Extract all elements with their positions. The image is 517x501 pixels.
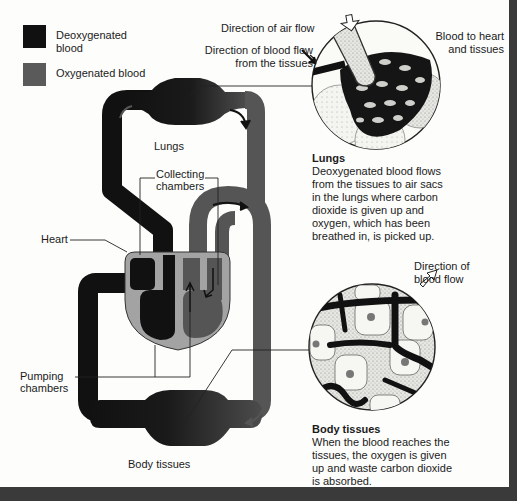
heart — [125, 252, 230, 350]
tissues-magnified-view — [309, 270, 440, 415]
label-blood-flow-from-tissues: Direction of blood flow from the tissues — [185, 44, 313, 70]
legend-swatch-deoxygenated — [23, 25, 46, 48]
legend-deoxy-line2: blood — [56, 42, 127, 55]
label-air-flow: Direction of air flow — [221, 22, 315, 35]
legend-deoxy-line1: Deoxygenated — [56, 29, 127, 42]
lungs-caption-line: Deoxygenated blood flows — [312, 165, 443, 178]
tissues-caption-title: Body tissues — [312, 423, 452, 436]
collecting-line2: chambers — [156, 180, 204, 192]
legend-label-deoxygenated: Deoxygenated blood — [56, 29, 127, 55]
direction-blood-flow-line2: blood flow — [414, 273, 470, 286]
lungs-caption-line: dioxide is given up and — [312, 204, 443, 217]
direction-blood-flow-line1: Direction of — [414, 260, 470, 273]
lungs-caption-line: in the lungs where carbon — [312, 191, 443, 204]
label-collecting-chambers: Collecting chambers — [156, 168, 204, 192]
label-direction-blood-flow: Direction of blood flow — [414, 260, 470, 286]
lungs-caption-line: breathed in, is picked up. — [312, 230, 443, 243]
tissues-caption-line: is absorbed. — [312, 475, 452, 487]
blood-to-heart-line1: Blood to heart — [430, 30, 504, 43]
label-heart: Heart — [41, 233, 68, 246]
blood-flow-tissues-line2: from the tissues — [185, 57, 313, 70]
lungs-caption-title: Lungs — [312, 152, 443, 165]
lungs-caption-line: oxygen, which has been — [312, 217, 443, 230]
collecting-line1: Collecting — [156, 168, 204, 180]
label-body-tissues: Body tissues — [128, 458, 190, 471]
lungs-capillaries — [125, 78, 256, 125]
label-blood-to-heart: Blood to heart and tissues — [430, 30, 504, 56]
blood-flow-tissues-line1: Direction of blood flow — [185, 44, 313, 57]
blood-to-heart-line2: and tissues — [430, 43, 504, 56]
tissues-caption-line: up and waste carbon dioxide — [312, 462, 452, 475]
lungs-caption-line: from the tissues to air sacs — [312, 178, 443, 191]
diagram-page: Deoxygenated blood Oxygenated blood Lung… — [0, 0, 509, 487]
body-tissues-capillaries — [90, 390, 262, 446]
tissues-caption: Body tissues When the blood reaches the … — [312, 423, 452, 487]
pumping-line2: chambers — [20, 382, 68, 394]
tissues-caption-line: When the blood reaches the — [312, 436, 452, 449]
lungs-magnified-view — [302, 14, 448, 165]
legend-swatch-oxygenated — [23, 63, 46, 86]
lungs-caption: Lungs Deoxygenated blood flows from the … — [312, 152, 443, 243]
tissues-caption-line: tissues, the oxygen is given — [312, 449, 452, 462]
label-lungs: Lungs — [154, 140, 184, 153]
label-pumping-chambers: Pumping chambers — [20, 370, 68, 394]
legend-label-oxygenated: Oxygenated blood — [56, 67, 145, 80]
pumping-line1: Pumping — [20, 370, 68, 382]
